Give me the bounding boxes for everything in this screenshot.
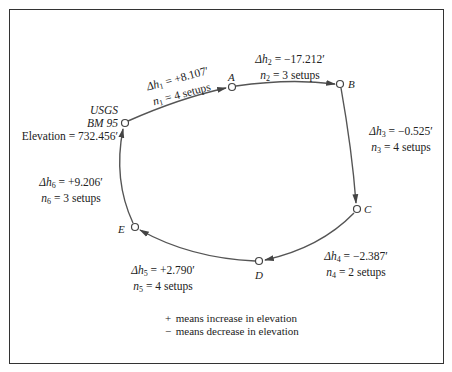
leg-5-path xyxy=(140,230,255,261)
legend-item-minus: − means decrease in elevation xyxy=(163,325,299,338)
node-e xyxy=(132,224,139,231)
leg-5-label: Δh5 = +2.790′ n5 = 4 setups xyxy=(118,264,208,296)
node-label-e: E xyxy=(118,223,125,235)
node-d xyxy=(256,258,263,265)
benchmark-name: BM 95 xyxy=(20,117,118,130)
leg-3-path xyxy=(341,88,356,203)
benchmark-elevation: Elevation = 732.456′ xyxy=(20,130,118,143)
leg-6-path xyxy=(120,129,133,223)
node-a xyxy=(229,84,236,91)
node-label-c: C xyxy=(364,203,371,215)
benchmark-label: USGS BM 95 Elevation = 732.456′ xyxy=(20,104,118,143)
node-c xyxy=(354,206,361,213)
leg-4-label: Δh4 = −2.387′ n4 = 2 setups xyxy=(310,250,402,282)
leg-3-label: Δh3 = −0.525′ n3 = 4 setups xyxy=(355,125,447,157)
node-bm xyxy=(122,120,129,127)
leg-2-label: Δh2 = −17.212′ n2 = 3 setups xyxy=(240,53,340,85)
node-label-b: B xyxy=(348,78,355,90)
legend-item-plus: + means increase in elevation xyxy=(163,312,299,325)
node-label-d: D xyxy=(255,269,263,281)
node-label-a: A xyxy=(228,71,235,83)
benchmark-agency: USGS xyxy=(20,104,118,117)
leg-6-label: Δh6 = +9.206′ n6 = 3 setups xyxy=(26,176,116,208)
legend: + means increase in elevation − means de… xyxy=(163,312,299,338)
